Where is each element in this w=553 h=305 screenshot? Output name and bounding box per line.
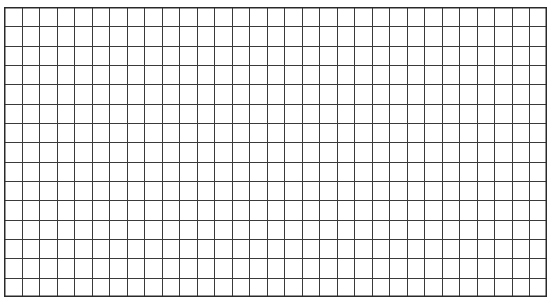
cropped-caption-text: [0, 0, 553, 3]
grid-border: [5, 8, 547, 297]
grid-lines: [4, 7, 547, 297]
graph-paper-grid: [4, 7, 547, 297]
